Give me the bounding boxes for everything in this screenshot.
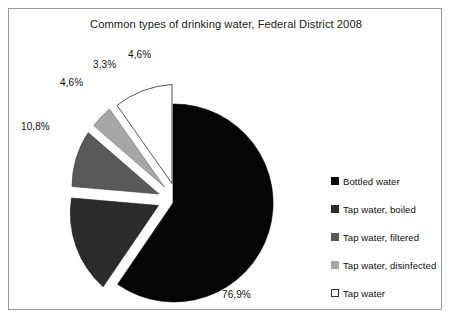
legend-label-tap-filtered: Tap water, filtered [343, 232, 419, 243]
legend-swatch-icon [331, 205, 339, 213]
slice-label-tap-disinfected: 3,3% [93, 59, 116, 70]
legend-swatch-icon [331, 233, 339, 241]
legend-item-tap-boiled[interactable]: Tap water, boiled [331, 195, 451, 223]
slice-label-tap-filtered: 4,6% [60, 77, 83, 88]
legend-swatch-icon [331, 177, 339, 185]
legend-item-tap-disinfected[interactable]: Tap water, disinfected [331, 251, 451, 279]
legend-item-tap-filtered[interactable]: Tap water, filtered [331, 223, 451, 251]
slice-label-bottled-water: 76,9% [222, 289, 251, 300]
slice-label-tap-water: 4,6% [128, 49, 151, 60]
legend-swatch-icon [331, 289, 339, 297]
pie-svg [9, 27, 329, 309]
chart-legend: Bottled water Tap water, boiled Tap wate… [331, 167, 451, 307]
legend-swatch-icon [331, 261, 339, 269]
legend-label-tap-water: Tap water [343, 288, 385, 299]
pie-chart: 10,8% 4,6% 3,3% 4,6% 76,9% [9, 27, 329, 309]
legend-label-tap-disinfected: Tap water, disinfected [343, 260, 436, 271]
legend-label-bottled-water: Bottled water [343, 176, 400, 187]
chart-frame: Common types of drinking water, Federal … [8, 8, 442, 310]
legend-label-tap-boiled: Tap water, boiled [343, 204, 416, 215]
legend-item-tap-water[interactable]: Tap water [331, 279, 451, 307]
slice-label-tap-boiled: 10,8% [21, 121, 50, 132]
legend-item-bottled-water[interactable]: Bottled water [331, 167, 451, 195]
